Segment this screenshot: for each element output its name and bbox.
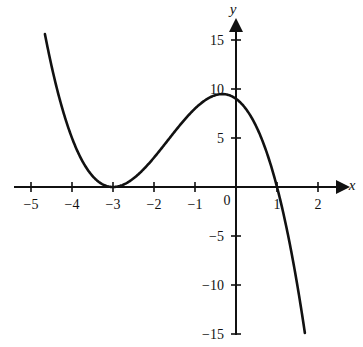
chart-figure: −5 −4 −3 −2 −1 0 1 2 −15 −10 −5 5 10 15 … xyxy=(0,0,363,347)
y-tick-label--10: −10 xyxy=(202,278,224,293)
x-tick-label--5: −5 xyxy=(24,197,39,212)
y-tick-label--15: −15 xyxy=(202,327,224,342)
x-tick-label--4: −4 xyxy=(65,197,80,212)
x-tick-label-2: 2 xyxy=(315,197,322,212)
y-tick-label-5: 5 xyxy=(217,131,224,146)
y-tick-label--5: −5 xyxy=(209,229,224,244)
x-tick-label-0: 0 xyxy=(224,193,231,208)
plot-svg: −5 −4 −3 −2 −1 0 1 2 −15 −10 −5 5 10 15 … xyxy=(0,0,363,347)
function-curve xyxy=(45,34,305,333)
y-axis-arrowhead xyxy=(229,18,243,32)
y-axis-label: y xyxy=(228,1,237,17)
x-axis-label: x xyxy=(348,177,356,193)
x-tick-label--1: −1 xyxy=(188,197,203,212)
x-tick-label--2: −2 xyxy=(147,197,162,212)
x-tick-label--3: −3 xyxy=(106,197,121,212)
y-tick-label-15: 15 xyxy=(210,33,224,48)
